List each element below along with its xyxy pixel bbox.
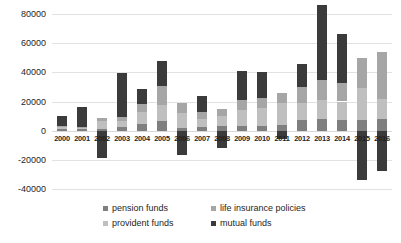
- bar-segment: [137, 124, 147, 131]
- y-axis-tick-label: 80000: [0, 9, 46, 19]
- bar-segment: [117, 73, 127, 117]
- x-axis-tick-label: 2005: [154, 134, 170, 143]
- bar-segment: [277, 93, 287, 103]
- x-axis-tick-label: 2004: [134, 134, 150, 143]
- x-axis-tick-label: 2011: [274, 134, 289, 143]
- bar-segment: [237, 126, 247, 130]
- bar-segment: [77, 128, 87, 129]
- bar-segment: [337, 83, 347, 102]
- y-axis-tick-label: 20000: [0, 97, 46, 107]
- bar-segment: [157, 121, 167, 130]
- x-axis-tick-label: 2012: [294, 134, 310, 143]
- bar-segment: [217, 116, 227, 125]
- bar-group: [317, 14, 327, 189]
- legend-item-provident-funds: provident funds: [103, 219, 211, 228]
- x-axis-tick-label: 2006: [174, 134, 190, 143]
- bar-segment: [297, 103, 307, 121]
- bar-segment: [377, 52, 387, 99]
- legend-item-life-insurance-policies: life insurance policies: [211, 204, 306, 213]
- bar-group: [377, 14, 387, 189]
- bar-segment: [117, 127, 127, 131]
- bar-group: [237, 14, 247, 189]
- x-axis-tick-label: 2007: [194, 134, 210, 143]
- bar-group: [117, 14, 127, 189]
- legend-row: pension funds life insurance policies: [103, 201, 373, 216]
- bar-group: [297, 14, 307, 189]
- bar-series-container: [52, 14, 392, 189]
- bar-segment: [177, 113, 187, 128]
- bar-segment: [57, 126, 67, 127]
- bar-segment: [257, 98, 267, 108]
- bar-group: [337, 14, 347, 189]
- bar-segment: [157, 105, 167, 121]
- bar-segment: [197, 112, 207, 119]
- bar-group: [57, 14, 67, 189]
- bar-group: [357, 14, 367, 189]
- bar-segment: [217, 109, 227, 116]
- bar-segment: [197, 127, 207, 131]
- x-axis-tick-label: 2003: [114, 134, 130, 143]
- bar-segment: [97, 118, 107, 121]
- y-axis-tick-label: 60000: [0, 38, 46, 48]
- bar-group: [137, 14, 147, 189]
- legend-row: provident funds mutual funds: [103, 216, 373, 231]
- x-axis-tick-label: 2013: [314, 134, 330, 143]
- bar-segment: [337, 102, 347, 121]
- plot-area: [52, 14, 392, 189]
- bar-segment: [257, 126, 267, 131]
- x-axis-tick-label: 2010: [254, 134, 270, 143]
- bar-segment: [197, 119, 207, 127]
- x-axis-tick-label: 2016: [374, 134, 390, 143]
- bar-segment: [57, 116, 67, 126]
- bar-segment: [257, 108, 267, 126]
- bar-group: [257, 14, 267, 189]
- bar-segment: [377, 99, 387, 119]
- legend-item-mutual-funds: mutual funds: [211, 219, 272, 228]
- bar-segment: [177, 103, 187, 113]
- bar-segment: [197, 96, 207, 113]
- bar-segment: [277, 103, 287, 125]
- legend-swatch-icon: [211, 221, 216, 226]
- bar-segment: [137, 112, 147, 124]
- bar-segment: [317, 5, 327, 79]
- bar-segment: [117, 117, 127, 121]
- x-axis-tick-label: 2015: [354, 134, 370, 143]
- bar-segment: [337, 120, 347, 130]
- x-axis-tick-label: 2000: [54, 134, 70, 143]
- bar-group: [97, 14, 107, 189]
- bar-segment: [97, 121, 107, 129]
- bar-segment: [237, 71, 247, 100]
- bar-segment: [357, 58, 367, 87]
- bar-segment: [337, 34, 347, 82]
- bar-segment: [257, 72, 267, 98]
- y-axis-tick-label: -40000: [0, 184, 46, 194]
- y-axis-tick-label: 40000: [0, 67, 46, 77]
- legend-label: life insurance policies: [220, 204, 306, 213]
- bar-segment: [297, 120, 307, 130]
- bar-segment: [137, 104, 147, 113]
- bar-segment: [117, 121, 127, 127]
- bar-group: [77, 14, 87, 189]
- legend-swatch-icon: [211, 206, 216, 211]
- y-axis-tick-label: 0: [0, 126, 46, 136]
- legend-swatch-icon: [103, 221, 108, 226]
- bar-segment: [77, 129, 87, 130]
- x-axis-tick-label: 2009: [234, 134, 250, 143]
- bar-segment: [317, 80, 327, 100]
- bar-segment: [377, 119, 387, 131]
- bar-segment: [357, 120, 367, 131]
- legend-swatch-icon: [103, 206, 108, 211]
- legend-label: provident funds: [112, 219, 174, 228]
- bar-segment: [157, 61, 167, 86]
- bar-segment: [297, 64, 307, 87]
- bar-group: [197, 14, 207, 189]
- y-axis-tick-label: -20000: [0, 155, 46, 165]
- x-axis-tick-label: 2008: [214, 134, 230, 143]
- bar-segment: [57, 129, 67, 131]
- bar-segment: [137, 89, 147, 104]
- bar-segment: [357, 88, 367, 120]
- bar-group: [157, 14, 167, 189]
- bar-segment: [317, 119, 327, 131]
- legend-item-pension-funds: pension funds: [103, 204, 211, 213]
- bar-segment: [77, 107, 87, 127]
